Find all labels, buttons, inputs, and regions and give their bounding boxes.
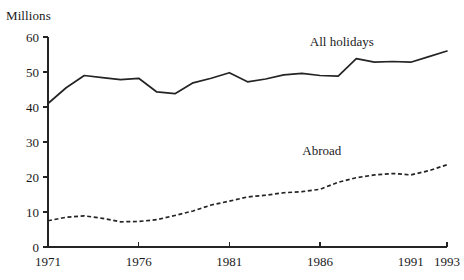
series-annotation-layer: All holidaysAbroad xyxy=(302,34,373,159)
holidays-line-chart: Millions 0102030405060 19711976198119861… xyxy=(0,0,464,280)
y-tick-label: 10 xyxy=(26,205,39,220)
y-tick-label: 50 xyxy=(26,65,39,80)
x-tick-label: 1991 xyxy=(398,254,424,269)
series-line-all-holidays xyxy=(48,51,447,104)
x-tick-label: 1976 xyxy=(126,254,153,269)
series-label-abroad: Abroad xyxy=(302,143,341,158)
y-tick-label: 30 xyxy=(26,135,39,150)
y-tick-label: 60 xyxy=(26,30,39,45)
x-tick-label: 1986 xyxy=(307,254,334,269)
x-tick-label: 1981 xyxy=(216,254,242,269)
chart-canvas: 0102030405060 197119761981198619911993 A… xyxy=(0,0,464,280)
x-tick-label: 1993 xyxy=(434,254,460,269)
x-tick-label: 1971 xyxy=(35,254,61,269)
y-tick-label: 20 xyxy=(26,170,39,185)
x-axis-group: 197119761981198619911993 xyxy=(35,242,460,269)
series-label-all-holidays: All holidays xyxy=(310,34,374,49)
x-axis-tick-labels: 197119761981198619911993 xyxy=(35,254,460,269)
data-series-layer xyxy=(48,51,447,222)
series-line-abroad xyxy=(48,165,447,222)
y-axis-group: 0102030405060 xyxy=(26,30,48,255)
y-tick-label: 0 xyxy=(33,240,40,255)
y-axis-tick-labels: 0102030405060 xyxy=(26,30,39,255)
y-tick-label: 40 xyxy=(26,100,39,115)
